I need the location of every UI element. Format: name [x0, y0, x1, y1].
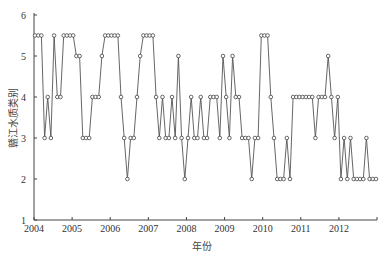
data-point [59, 95, 63, 99]
y-axis-ticks: 123456 [21, 10, 37, 226]
data-point [288, 177, 292, 181]
data-point [266, 34, 270, 38]
data-point [218, 136, 222, 140]
x-tick-label: 2007 [138, 223, 158, 234]
data-point [180, 136, 184, 140]
data-point [365, 136, 369, 140]
data-point [170, 95, 174, 99]
data-point [247, 136, 251, 140]
data-point [173, 136, 177, 140]
data-point [151, 34, 155, 38]
data-point [49, 136, 53, 140]
data-point [154, 95, 158, 99]
data-point [132, 136, 136, 140]
data-point [342, 136, 346, 140]
data-point [183, 177, 187, 181]
data-point [323, 95, 327, 99]
data-point [333, 136, 337, 140]
data-point [161, 95, 165, 99]
data-point [374, 177, 378, 181]
data-point [250, 177, 254, 181]
y-tick-label: 6 [21, 10, 26, 21]
data-point [224, 95, 228, 99]
data-point [177, 54, 181, 58]
data-point [158, 136, 162, 140]
data-point [71, 34, 75, 38]
data-point [87, 136, 91, 140]
data-point [326, 54, 330, 58]
line-chart: 123456 200420052006200720082009201020112… [0, 0, 388, 261]
data-point [282, 177, 286, 181]
data-point [40, 34, 44, 38]
x-tick-label: 2010 [253, 223, 273, 234]
x-tick-label: 2008 [176, 223, 196, 234]
data-point [221, 54, 225, 58]
x-tick-label: 2005 [62, 223, 82, 234]
data-point [78, 54, 82, 58]
data-point [237, 95, 241, 99]
data-markers [33, 34, 378, 181]
data-point [349, 136, 353, 140]
data-point [269, 95, 273, 99]
data-point [116, 34, 120, 38]
x-axis-title: 年份 [192, 240, 212, 252]
series-line [35, 36, 376, 180]
data-point [97, 95, 101, 99]
data-point [205, 136, 209, 140]
x-tick-label: 2012 [329, 223, 349, 234]
data-point [126, 177, 130, 181]
data-point [336, 95, 340, 99]
data-point [119, 95, 123, 99]
data-point [189, 95, 193, 99]
data-point [311, 95, 315, 99]
data-point [186, 136, 190, 140]
data-point [138, 54, 142, 58]
y-tick-label: 2 [21, 174, 26, 185]
x-tick-label: 2004 [24, 223, 44, 234]
data-point [362, 177, 366, 181]
data-point [339, 177, 343, 181]
x-tick-label: 2006 [100, 223, 120, 234]
data-point [196, 136, 200, 140]
data-point [167, 136, 171, 140]
data-point [135, 95, 139, 99]
data-point [52, 34, 56, 38]
x-tick-label: 2009 [215, 223, 235, 234]
axes [34, 13, 377, 220]
data-point [314, 136, 318, 140]
data-point [256, 136, 260, 140]
data-point [228, 136, 232, 140]
data-point [330, 95, 334, 99]
y-tick-label: 4 [21, 92, 26, 103]
data-point [272, 136, 276, 140]
y-tick-label: 5 [21, 51, 26, 62]
y-axis-title: 赣江水质类别 [7, 88, 19, 148]
y-tick-label: 3 [21, 133, 26, 144]
data-point [43, 136, 47, 140]
data-point [231, 54, 235, 58]
data-point [215, 95, 219, 99]
data-point [285, 136, 289, 140]
data-point [122, 136, 126, 140]
data-point [46, 95, 50, 99]
data-point [199, 95, 203, 99]
data-point [346, 177, 350, 181]
x-tick-label: 2011 [291, 223, 311, 234]
data-point [100, 54, 104, 58]
